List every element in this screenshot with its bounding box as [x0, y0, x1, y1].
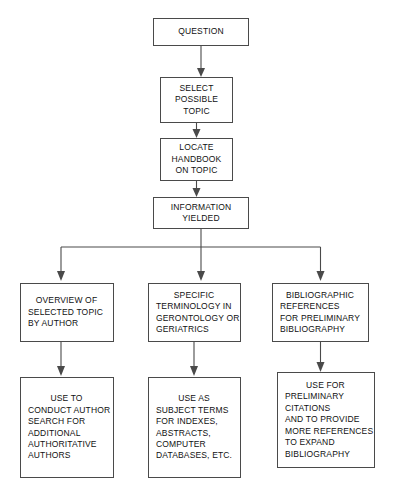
- node-bibliographic-references-line-4: BIBLIOGRAPHY: [280, 324, 364, 335]
- node-use-for-preliminary-citations-line-3: CITATIONS: [285, 403, 370, 414]
- node-overview-of-selected-topic-line-1: OVERVIEW OF: [24, 295, 109, 306]
- node-specific-terminology: SPECIFICTERMINOLOGY INGERONTOLOGY ORGERI…: [148, 283, 241, 342]
- node-information-yielded: INFORMATIONYIELDED: [153, 197, 249, 229]
- connector-bus-to-bibliographic: [317, 247, 325, 281]
- connector-locate-to-information: [193, 181, 201, 197]
- node-locate-handbook-on-topic-line-3: ON TOPIC: [176, 165, 218, 176]
- connector-select-to-locate: [193, 123, 201, 138]
- connector-question-to-select: [197, 46, 205, 77]
- node-use-to-conduct-author-search-line-2: CONDUCT AUTHOR: [28, 405, 109, 416]
- node-bibliographic-references: BIBLIOGRAPHICREFERENCESFOR PRELIMINARYBI…: [272, 283, 369, 342]
- node-bibliographic-references-line-2: REFERENCES: [280, 301, 364, 312]
- node-overview-of-selected-topic: OVERVIEW OFSELECTED TOPICBY AUTHOR: [20, 283, 114, 342]
- connector-specific-to-use-subject: [190, 342, 198, 376]
- node-use-for-preliminary-citations-line-5: MORE REFERENCES: [285, 426, 370, 437]
- node-specific-terminology-line-4: GERIATRICS: [156, 324, 236, 335]
- node-use-as-subject-terms: USE ASSUBJECT TERMSFOR INDEXES,ABSTRACTS…: [148, 377, 241, 478]
- flowchart-canvas: QUESTIONSELECTPOSSIBLETOPICLOCATEHANDBOO…: [0, 0, 393, 491]
- node-use-as-subject-terms-line-2: SUBJECT TERMS: [156, 405, 236, 416]
- node-select-possible-topic: SELECTPOSSIBLETOPIC: [160, 77, 233, 123]
- node-use-for-preliminary-citations-line-7: BIBLIOGRAPHY: [285, 449, 370, 460]
- node-use-as-subject-terms-line-3: FOR INDEXES,: [156, 416, 236, 427]
- node-use-to-conduct-author-search: USE TOCONDUCT AUTHORSEARCH FORADDITIONAL…: [20, 377, 114, 478]
- node-use-to-conduct-author-search-line-1: USE TO: [24, 393, 109, 404]
- node-use-to-conduct-author-search-line-6: AUTHORS: [28, 450, 109, 461]
- node-use-to-conduct-author-search-line-3: SEARCH FOR: [28, 416, 109, 427]
- node-use-for-preliminary-citations-line-1: USE FOR: [281, 380, 370, 391]
- node-use-as-subject-terms-line-5: COMPUTER: [156, 439, 236, 450]
- node-locate-handbook-on-topic-line-2: HANDBOOK: [172, 154, 222, 165]
- node-select-possible-topic-line-2: POSSIBLE: [175, 94, 218, 105]
- node-use-for-preliminary-citations-line-2: PRELIMINARY: [285, 391, 370, 402]
- node-bibliographic-references-line-3: FOR PRELIMINARY: [280, 313, 364, 324]
- connector-information-to-bus: [197, 229, 205, 281]
- node-locate-handbook-on-topic: LOCATEHANDBOOKON TOPIC: [160, 138, 233, 181]
- node-question: QUESTION: [153, 18, 249, 46]
- node-use-as-subject-terms-line-4: ABSTRACTS,: [156, 428, 236, 439]
- node-overview-of-selected-topic-line-3: BY AUTHOR: [28, 318, 109, 329]
- node-specific-terminology-line-2: TERMINOLOGY IN: [156, 301, 236, 312]
- node-use-as-subject-terms-line-6: DATABASES, ETC.: [156, 450, 236, 461]
- node-locate-handbook-on-topic-line-1: LOCATE: [179, 142, 213, 153]
- connector-overview-to-use-author: [57, 342, 65, 376]
- node-use-to-conduct-author-search-line-5: AUTHORITATIVE: [28, 439, 109, 450]
- node-question-line-1: QUESTION: [178, 26, 224, 37]
- node-use-for-preliminary-citations-line-4: AND TO PROVIDE: [285, 414, 370, 425]
- node-select-possible-topic-line-1: SELECT: [180, 83, 214, 94]
- node-specific-terminology-line-3: GERONTOLOGY OR: [156, 313, 236, 324]
- node-specific-terminology-line-1: SPECIFIC: [152, 290, 236, 301]
- node-use-to-conduct-author-search-line-4: ADDITIONAL: [28, 428, 109, 439]
- node-select-possible-topic-line-3: TOPIC: [183, 106, 210, 117]
- node-information-yielded-line-1: INFORMATION: [171, 202, 232, 213]
- node-information-yielded-line-2: YIELDED: [182, 213, 219, 224]
- connector-bus-to-overview: [57, 247, 65, 281]
- node-use-as-subject-terms-line-1: USE AS: [152, 393, 236, 404]
- connector-bibliographic-to-use-preliminary: [317, 342, 325, 372]
- node-use-for-preliminary-citations-line-6: TO EXPAND: [285, 437, 370, 448]
- node-use-for-preliminary-citations: USE FORPRELIMINARYCITATIONSAND TO PROVID…: [277, 372, 375, 468]
- node-overview-of-selected-topic-line-2: SELECTED TOPIC: [28, 307, 109, 318]
- node-bibliographic-references-line-1: BIBLIOGRAPHIC: [276, 290, 364, 301]
